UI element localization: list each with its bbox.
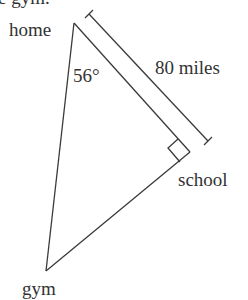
side-school-gym — [46, 152, 190, 271]
angle-label: 56° — [73, 65, 100, 86]
triangle-diagram: e gym. home 56° 80 miles school gym — [0, 0, 248, 300]
side-gym-home — [46, 23, 74, 271]
distance-label: 80 miles — [155, 57, 220, 78]
vertex-label-home: home — [9, 19, 51, 40]
partial-header-text: e gym. — [0, 0, 50, 8]
side-home-school — [74, 23, 190, 152]
vertex-label-school: school — [178, 169, 228, 190]
right-angle-marker — [168, 139, 180, 162]
vertex-label-gym: gym — [22, 278, 56, 299]
